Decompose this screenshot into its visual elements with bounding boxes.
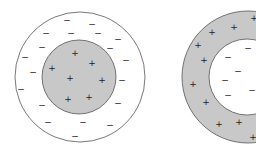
positive-charge: + (64, 94, 72, 104)
positive-charge: + (88, 58, 96, 68)
negative-charge: − (38, 42, 46, 52)
negative-charge: − (29, 67, 37, 77)
charge-diagram: +++++++−−−−−−−−−−−−−−−−−−− ++++++++++−−−… (0, 0, 256, 150)
positive-charge: + (249, 132, 256, 142)
negative-charge: − (106, 43, 114, 53)
positive-charge: + (189, 79, 197, 89)
negative-charge: − (42, 28, 50, 38)
negative-charge: − (221, 75, 229, 85)
negative-charge: − (63, 15, 71, 25)
negative-charge: − (114, 34, 122, 44)
negative-charge: − (224, 90, 232, 100)
positive-charge: + (250, 13, 256, 23)
negative-charge: − (224, 52, 232, 62)
positive-charge: + (202, 97, 210, 107)
positive-charge: + (230, 22, 238, 32)
negative-charge: − (244, 43, 252, 53)
positive-charge: + (71, 48, 79, 58)
negative-charge: − (118, 75, 126, 85)
negative-charge: − (106, 120, 114, 130)
positive-charge: + (48, 63, 56, 73)
positive-charge: + (85, 92, 93, 102)
positive-charge: + (200, 55, 208, 65)
negative-charge: − (122, 55, 130, 65)
positive-charge: + (215, 119, 223, 129)
positive-charge: + (208, 27, 216, 37)
negative-charge: − (79, 117, 87, 127)
negative-charge: − (67, 28, 75, 38)
negative-charge: − (38, 100, 46, 110)
negative-charge: − (248, 85, 256, 95)
negative-charge: − (17, 84, 25, 94)
positive-charge: + (98, 75, 106, 85)
negative-charge: − (94, 28, 102, 38)
negative-charge: − (71, 131, 79, 141)
positive-charge: + (194, 40, 202, 50)
positive-charge: + (235, 117, 243, 127)
negative-charge: − (114, 98, 122, 108)
positive-charge: + (66, 73, 74, 83)
negative-charge: − (234, 66, 242, 76)
negative-charge: − (21, 52, 29, 62)
left-sphere: +++++++−−−−−−−−−−−−−−−−−−− (15, 12, 145, 142)
negative-charge: − (44, 117, 52, 127)
right-sphere: ++++++++++−−−−−− (182, 11, 256, 143)
